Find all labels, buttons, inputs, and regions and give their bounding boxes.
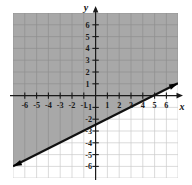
- coordinate-plane: -6 -5 -4 -3 -2 -1 1 2 3 4 5 6 6 5 4 3 2 …: [0, 0, 192, 185]
- x-tick-label: 3: [129, 101, 133, 110]
- x-tick-label: 6: [164, 101, 168, 110]
- y-tick-label: -6: [85, 162, 92, 171]
- y-tick-label: 6: [85, 21, 89, 30]
- x-tick-label: -5: [33, 101, 40, 110]
- x-tick-label: 2: [117, 101, 121, 110]
- y-tick-label: -4: [85, 139, 92, 148]
- y-tick-label: 3: [85, 56, 89, 65]
- y-tick-label: -1: [85, 103, 92, 112]
- x-tick-label: -2: [69, 101, 76, 110]
- y-tick-label: 5: [85, 33, 89, 42]
- graph-figure: -6 -5 -4 -3 -2 -1 1 2 3 4 5 6 6 5 4 3 2 …: [0, 0, 192, 185]
- y-tick-label: -3: [85, 127, 92, 136]
- x-axis-label: x: [179, 101, 185, 112]
- x-tick-label: -3: [57, 101, 64, 110]
- x-tick-label: -4: [45, 101, 52, 110]
- y-tick-label: 2: [85, 68, 89, 77]
- y-tick-label: -2: [85, 115, 92, 124]
- x-tick-label: -6: [21, 101, 28, 110]
- x-tick-label: 5: [153, 101, 157, 110]
- y-axis-arrow: [93, 6, 99, 13]
- y-tick-label: 1: [85, 80, 89, 89]
- x-axis-arrow: [177, 93, 184, 99]
- x-tick-label: 4: [141, 101, 145, 110]
- y-tick-label: 4: [85, 44, 89, 53]
- x-tick-label: 1: [105, 101, 109, 110]
- y-tick-label: -5: [85, 151, 92, 160]
- y-axis-label: y: [83, 2, 89, 13]
